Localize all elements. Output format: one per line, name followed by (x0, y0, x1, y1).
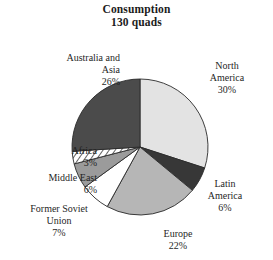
slice-label-line2: America (183, 72, 271, 84)
slice-label-percent: 7% (2, 227, 116, 239)
slice-label-north-america: North America 30% (183, 60, 271, 97)
slice-label-africa: Africa 3% (0, 145, 97, 169)
slice-label-line1: Former Soviet (2, 203, 116, 215)
slice-label-percent: 30% (183, 84, 271, 96)
slice-label-former-soviet-union: Former Soviet Union 7% (2, 203, 116, 240)
slice-label-middle-east: Middle East 6% (0, 172, 97, 196)
slice-label-line2: Asia (10, 64, 120, 76)
slice-label-line1: Middle East (0, 172, 97, 184)
slice-label-percent: 6% (181, 202, 269, 214)
pie-slice-australia-and-asia (72, 79, 140, 151)
slice-label-percent: 26% (10, 76, 120, 88)
pie-chart-figure: Consumption 130 quads North America 30% … (0, 0, 273, 260)
slice-label-percent: 3% (0, 157, 97, 169)
slice-label-line1: Europe (134, 228, 222, 240)
slice-label-europe: Europe 22% (134, 228, 222, 252)
slice-label-percent: 6% (0, 184, 97, 196)
slice-label-line2: America (181, 190, 269, 202)
slice-label-line2: Union (2, 215, 116, 227)
slice-label-line1: North (183, 60, 271, 72)
slice-label-line1: Latin (181, 178, 269, 190)
slice-label-percent: 22% (134, 240, 222, 252)
slice-label-line1: Australia and (10, 52, 120, 64)
slice-label-latin-america: Latin America 6% (181, 178, 269, 215)
slice-label-line1: Africa (0, 145, 97, 157)
slice-label-australia-and-asia: Australia and Asia 26% (10, 52, 120, 89)
